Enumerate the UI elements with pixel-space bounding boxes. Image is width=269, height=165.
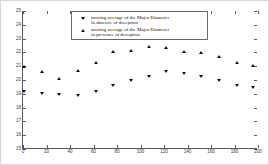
y-tick-mirror [254, 11, 257, 12]
chart-legend: moving average of the Major Diameter in … [71, 11, 208, 40]
x-tick [164, 145, 165, 148]
legend-absence-line1: moving average of the Major Diameter [91, 15, 169, 20]
x-tick-label: 40 [67, 150, 72, 155]
x-tick-label: 60 [91, 150, 96, 155]
y-tick [23, 108, 26, 109]
triangle-down-icon [75, 14, 91, 26]
triangle-up-icon [75, 26, 91, 38]
y-tick-label: 16 [16, 133, 21, 138]
legend-entry-absence: moving average of the Major Diameter in … [75, 14, 205, 26]
x-tick [211, 145, 212, 148]
y-tick-mirror [254, 135, 257, 136]
y-tick-mirror [254, 80, 257, 81]
x-tick [23, 145, 24, 148]
x-tick [141, 145, 142, 148]
x-tick [117, 145, 118, 148]
x-tick-mirror [211, 11, 212, 14]
x-tick-label: 20 [44, 150, 49, 155]
y-tick [23, 135, 26, 136]
y-tick-label: 20 [16, 78, 21, 83]
legend-absence-line2: in absence of deception [91, 20, 138, 25]
x-tick-label: 0 [22, 150, 25, 155]
x-tick [188, 145, 189, 148]
y-tick-mirror [254, 25, 257, 26]
x-tick-label: 160 [207, 150, 215, 155]
y-tick-label: 23 [16, 36, 21, 41]
y-tick-mirror [254, 108, 257, 109]
x-tick-label: 80 [114, 150, 119, 155]
y-tick-label: 15 [16, 147, 21, 152]
y-tick-label: 17 [16, 119, 21, 124]
legend-entry-absence-text: moving average of the Major Diameter in … [91, 14, 169, 26]
y-tick [23, 52, 26, 53]
legend-presence-line2: in presence of deception [91, 32, 140, 37]
x-tick [258, 145, 259, 148]
y-tick [23, 39, 26, 40]
x-tick-mirror [23, 11, 24, 14]
x-tick-label: 120 [160, 150, 168, 155]
y-tick-mirror [254, 39, 257, 40]
y-tick-mirror [254, 121, 257, 122]
x-tick-mirror [258, 11, 259, 14]
legend-entry-presence: moving average of the Major Diameter in … [75, 26, 205, 38]
y-tick-label: 24 [16, 23, 21, 28]
y-tick-mirror [254, 94, 257, 95]
x-tick-mirror [47, 11, 48, 14]
x-tick-label: 200 [254, 150, 262, 155]
y-tick [23, 80, 26, 81]
figure-container: 1516171819202122232425 02040608010012014… [0, 0, 269, 165]
y-tick [23, 121, 26, 122]
x-tick [70, 145, 71, 148]
legend-entry-presence-text: moving average of the Major Diameter in … [91, 26, 169, 38]
x-tick [235, 145, 236, 148]
y-tick-mirror [254, 52, 257, 53]
x-tick-label: 100 [137, 150, 145, 155]
y-tick-label: 22 [16, 50, 21, 55]
x-tick [94, 145, 95, 148]
y-tick-label: 25 [16, 9, 21, 14]
x-tick-label: 180 [231, 150, 239, 155]
y-tick [23, 94, 26, 95]
x-tick-label: 140 [184, 150, 192, 155]
x-tick-mirror [235, 11, 236, 14]
x-tick [47, 145, 48, 148]
legend-presence-line1: moving average of the Major Diameter [91, 27, 169, 32]
y-tick-label: 18 [16, 105, 21, 110]
y-tick-label: 19 [16, 92, 21, 97]
y-tick [23, 25, 26, 26]
y-tick-label: 21 [16, 64, 21, 69]
